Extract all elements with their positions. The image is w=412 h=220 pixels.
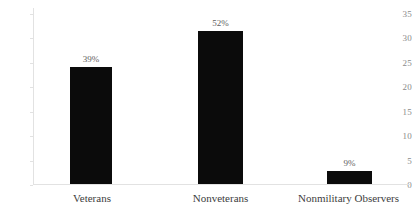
y-tick-mark-25: [30, 63, 33, 64]
y-tick-mark-0: [30, 185, 33, 186]
plot-area: 39% 52% 9%: [34, 8, 410, 184]
bar-value-label-nonmilitary-observers: 9%: [344, 159, 356, 168]
y-tick-mark-20: [30, 87, 33, 88]
y-tick-mark-35: [30, 14, 33, 15]
category-label-nonveterans: Nonveterans: [158, 192, 283, 204]
category-label-nonmilitary-observers: Nonmilitary Observers: [285, 192, 412, 204]
y-tick-mark-5: [30, 161, 33, 162]
bar-nonmilitary-observers[interactable]: [327, 171, 372, 184]
bar-nonveterans[interactable]: [198, 31, 243, 184]
bar-group-veterans: 39%: [70, 8, 112, 184]
category-label-veterans: Veterans: [30, 192, 154, 204]
y-tick-mark-30: [30, 38, 33, 39]
bar-value-label-veterans: 39%: [83, 55, 100, 64]
x-axis-line: [33, 184, 410, 185]
bar-chart: 35 30 25 20 15 10 5 0 39% 52% 9% Veteran…: [0, 0, 412, 220]
bar-group-nonmilitary-observers: 9%: [327, 8, 372, 184]
bar-value-label-nonveterans: 52%: [212, 19, 229, 28]
y-tick-mark-15: [30, 112, 33, 113]
y-tick-mark-10: [30, 136, 33, 137]
bar-veterans[interactable]: [70, 67, 112, 184]
bar-group-nonveterans: 52%: [198, 8, 243, 184]
